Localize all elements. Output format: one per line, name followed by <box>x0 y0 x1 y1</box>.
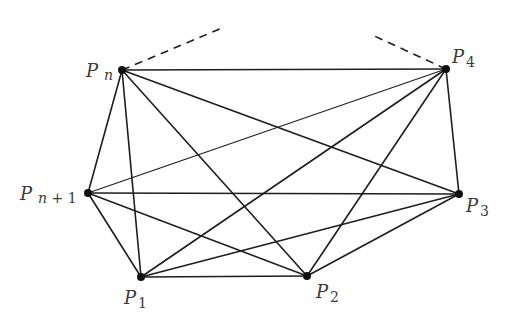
label-P3: P <box>465 195 479 216</box>
edge-Pn1-P3 <box>88 193 459 194</box>
label-P2: P <box>315 281 329 302</box>
label-subscript-Pn: n <box>104 67 113 83</box>
edge-Pn-P2 <box>122 70 307 276</box>
edge-P4-P3 <box>446 69 459 194</box>
node-Pn1 <box>84 189 92 197</box>
label-subscript-Pn1: n + 1 <box>38 190 77 206</box>
graph-nodes <box>84 65 463 281</box>
label-subscript-P1: 1 <box>138 295 147 311</box>
label-subscript-P2: 2 <box>330 289 339 305</box>
edge-Pn1-P1 <box>88 193 141 277</box>
node-P4 <box>442 65 450 73</box>
edge-P4-Pn1 <box>88 69 446 193</box>
edge-Pn-P1 <box>122 70 141 277</box>
edge-Pn-Pn1 <box>88 70 122 193</box>
edge-Pn1-P2 <box>88 193 307 276</box>
node-P2 <box>303 272 311 280</box>
label-subscript-P3: 3 <box>480 203 489 219</box>
edge-P4-P2 <box>307 69 446 276</box>
node-P3 <box>455 190 463 198</box>
node-Pn <box>118 66 126 74</box>
label-P1: P <box>123 287 137 308</box>
dashed-edges <box>122 28 446 70</box>
label-Pn1: P <box>19 183 33 204</box>
node-P1 <box>137 273 145 281</box>
dashed-edge-Pn <box>122 28 222 70</box>
edge-P3-P1 <box>141 194 459 277</box>
edge-Pn-P4 <box>122 69 446 70</box>
edge-P1-P2 <box>141 276 307 277</box>
complete-graph-diagram: PnP4Pn + 1P3P1P2 <box>0 0 510 320</box>
label-Pn: P <box>85 60 99 81</box>
label-subscript-P4: 4 <box>466 54 475 70</box>
graph-edges <box>88 69 459 277</box>
label-P4: P <box>451 46 465 67</box>
dashed-edge-P4 <box>370 34 446 69</box>
edge-P3-P2 <box>307 194 459 276</box>
